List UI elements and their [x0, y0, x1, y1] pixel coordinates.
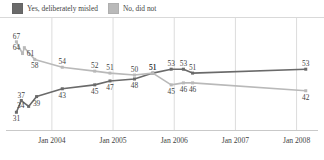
data-value-label: 67: [13, 33, 20, 41]
data-value-label: 53: [180, 60, 187, 68]
data-value-label: 34: [17, 102, 24, 110]
x-axis-labels: Jan 2004Jan 2005Jan 2006Jan 2007Jan 2008: [0, 133, 324, 153]
data-value-label: 46: [180, 86, 187, 94]
x-axis-tick-label: Jan 2005: [99, 136, 126, 146]
chart-container: Yes, deliberately misled No, did not Jan…: [0, 0, 324, 160]
data-value-label: 61: [27, 50, 34, 58]
data-value-label: 43: [59, 92, 66, 100]
data-value-label: 52: [91, 62, 98, 70]
series-line-no: [16, 42, 305, 91]
data-value-label: 47: [106, 84, 113, 92]
data-value-label: 45: [167, 88, 174, 96]
legend-label-yes: Yes, deliberately misled: [27, 4, 98, 13]
data-value-label: 48: [131, 82, 138, 90]
data-point-marker: [23, 46, 26, 49]
x-axis-line: [6, 130, 318, 131]
legend-swatch-icon: [108, 3, 119, 14]
data-value-label: 64: [13, 44, 20, 52]
x-axis-tick-label: Jan 2004: [38, 136, 65, 146]
data-point-marker: [27, 105, 30, 108]
data-value-label: 39: [33, 100, 40, 108]
data-value-label: 45: [91, 88, 98, 96]
chart-legend: Yes, deliberately misled No, did not: [12, 2, 156, 14]
data-point-marker: [21, 52, 24, 55]
data-value-label: 51: [189, 64, 196, 72]
x-axis-tick-label: Jan 2008: [283, 136, 310, 146]
data-value-label: 54: [59, 58, 66, 66]
data-value-label: 42: [302, 94, 309, 102]
data-value-label: 31: [13, 115, 20, 123]
x-axis-tick-label: Jan 2007: [222, 136, 249, 146]
legend-swatch-icon: [12, 3, 23, 14]
data-value-label: 37: [18, 92, 25, 100]
legend-label-no: No, did not: [123, 4, 156, 13]
data-value-label: 58: [31, 62, 38, 70]
x-axis-tick-label: Jan 2006: [161, 136, 188, 146]
data-value-label: 46: [189, 86, 196, 94]
plot-area: [0, 18, 324, 130]
data-value-label: 53: [167, 60, 174, 68]
data-value-label: 53: [302, 60, 309, 68]
data-value-label: 50: [131, 66, 138, 74]
data-value-label: 51: [149, 64, 156, 72]
legend-item-no: No, did not: [108, 3, 156, 14]
legend-item-yes: Yes, deliberately misled: [12, 3, 98, 14]
data-value-label: 51: [106, 64, 113, 72]
plot-svg: [0, 18, 324, 130]
